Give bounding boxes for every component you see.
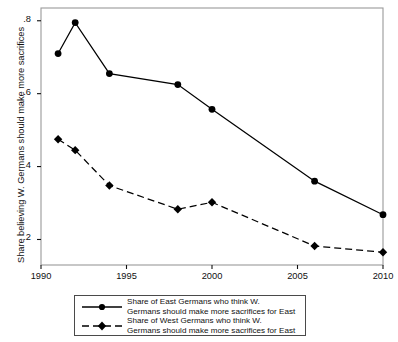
data-point-east	[174, 81, 181, 88]
plot-frame	[41, 8, 383, 265]
x-axis-tick-label: 2005	[278, 271, 318, 281]
legend-item-east: Share of East Germans who think W. Germa…	[75, 297, 305, 317]
legend-label-west-line1: Share of West Germans who think W.	[127, 316, 295, 326]
data-point-east	[55, 50, 62, 57]
legend-label-east: Share of East Germans who think W. Germa…	[127, 297, 295, 316]
data-point-east	[380, 211, 387, 218]
data-point-east	[209, 106, 216, 113]
legend-key-west-icon	[80, 316, 124, 336]
legend-label-east-line2: Germans should make more sacrifices for …	[127, 307, 295, 317]
x-axis-tick-label: 2010	[363, 271, 398, 281]
legend-label-east-line1: Share of East Germans who think W.	[127, 297, 295, 307]
legend-item-west: Share of West Germans who think W. Germa…	[75, 316, 305, 336]
x-axis-tick-label: 1990	[21, 271, 61, 281]
y-axis-tick-label: .8	[11, 14, 31, 24]
data-point-east	[72, 19, 79, 26]
chart-legend: Share of East Germans who think W. Germa…	[74, 295, 306, 336]
x-axis-tick-label: 1995	[107, 271, 147, 281]
data-point-east	[311, 178, 318, 185]
y-axis-tick-label: .6	[11, 87, 31, 97]
y-axis-tick-label: .4	[11, 160, 31, 170]
x-axis-tick-label: 2000	[192, 271, 232, 281]
legend-key-east-icon	[80, 297, 124, 317]
legend-label-west-line2: Germans should make more sacrifices for …	[127, 326, 295, 336]
legend-label-west: Share of West Germans who think W. Germa…	[127, 316, 295, 335]
y-axis-tick-label: .2	[11, 232, 31, 242]
data-point-east	[106, 70, 113, 77]
